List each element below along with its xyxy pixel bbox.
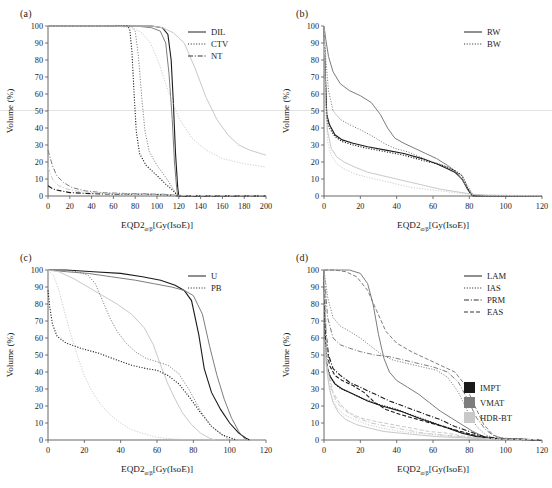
y-tick-label: 40 bbox=[35, 124, 43, 133]
x-tick-label: 0 bbox=[322, 446, 326, 455]
x-tick-label: 80 bbox=[131, 202, 139, 211]
y-tick-label: 20 bbox=[35, 158, 43, 167]
x-tick-label: 120 bbox=[536, 202, 548, 211]
panel-b: (b)0204060801001200102030405060708090100… bbox=[276, 0, 552, 244]
legend-label-EAS: EAS bbox=[487, 307, 503, 317]
panel-label: (c) bbox=[20, 252, 32, 263]
y-tick-label: 0 bbox=[39, 192, 43, 201]
y-axis-title: Volume (%) bbox=[281, 89, 291, 133]
curve-PB-IMPT bbox=[48, 290, 237, 440]
y-tick-label: 80 bbox=[35, 56, 43, 65]
panel-c: (c)0204060801001200102030405060708090100… bbox=[0, 244, 276, 488]
x-tick-label: 0 bbox=[46, 202, 50, 211]
y-tick-label: 80 bbox=[311, 56, 319, 65]
x-tick-label: 20 bbox=[80, 446, 88, 455]
legend-label-PB: PB bbox=[211, 283, 222, 293]
x-tick-label: 160 bbox=[216, 202, 228, 211]
panel-d: (d)0204060801001200102030405060708090100… bbox=[276, 244, 552, 488]
y-axis-title: Volume (%) bbox=[281, 333, 291, 377]
y-tick-label: 10 bbox=[311, 175, 319, 184]
x-axis-title: EQD2α/β[Gy(IsoE)] bbox=[397, 464, 469, 476]
y-tick-label: 100 bbox=[307, 22, 319, 31]
technique-swatch-HDR-BT bbox=[464, 412, 475, 423]
x-tick-label: 20 bbox=[356, 446, 364, 455]
x-tick-label: 40 bbox=[117, 446, 125, 455]
y-tick-label: 90 bbox=[311, 39, 319, 48]
y-tick-label: 0 bbox=[39, 436, 43, 445]
technique-label-HDR-BT: HDR-BT bbox=[480, 413, 513, 423]
x-tick-label: 80 bbox=[465, 202, 473, 211]
y-tick-label: 50 bbox=[35, 107, 43, 116]
y-tick-label: 60 bbox=[35, 90, 43, 99]
y-tick-label: 30 bbox=[35, 385, 43, 394]
curve-NT-HDR-BT bbox=[48, 167, 266, 196]
technique-label-IMPT: IMPT bbox=[480, 383, 501, 393]
curve-CTV-HDR-BT bbox=[48, 26, 266, 167]
y-tick-label: 10 bbox=[311, 419, 319, 428]
legend-label-NT: NT bbox=[211, 51, 223, 61]
curve-RW-IMPT bbox=[324, 26, 542, 196]
x-tick-label: 60 bbox=[109, 202, 117, 211]
y-tick-label: 0 bbox=[315, 192, 319, 201]
y-tick-label: 80 bbox=[311, 300, 319, 309]
curve-BW-IMPT bbox=[324, 26, 542, 196]
curve-RW-HDR-BT bbox=[324, 26, 542, 196]
curve-U-VMAT bbox=[48, 270, 248, 440]
y-tick-label: 60 bbox=[35, 334, 43, 343]
y-tick-label: 0 bbox=[315, 436, 319, 445]
x-axis-title: EQD2α/β[Gy(IsoE)] bbox=[397, 220, 469, 232]
y-axis-title: Volume (%) bbox=[5, 89, 15, 133]
x-tick-label: 60 bbox=[429, 202, 437, 211]
x-tick-label: 100 bbox=[500, 446, 512, 455]
y-tick-label: 100 bbox=[31, 266, 43, 275]
y-tick-label: 60 bbox=[311, 334, 319, 343]
x-tick-label: 200 bbox=[260, 202, 272, 211]
legend-label-LAM: LAM bbox=[487, 271, 506, 281]
curve-DIL-HDR-BT bbox=[48, 26, 266, 155]
y-tick-label: 50 bbox=[35, 351, 43, 360]
curve-U-HDR-BT bbox=[48, 270, 215, 440]
x-tick-label: 100 bbox=[151, 202, 163, 211]
y-axis-title: Volume (%) bbox=[5, 333, 15, 377]
x-tick-label: 120 bbox=[260, 446, 272, 455]
x-tick-label: 40 bbox=[393, 446, 401, 455]
y-tick-label: 40 bbox=[311, 368, 319, 377]
x-axis-title: EQD2α/β[Gy(IsoE)] bbox=[121, 464, 193, 476]
legend-label-IAS: IAS bbox=[487, 283, 501, 293]
y-tick-label: 70 bbox=[35, 73, 43, 82]
legend-label-CTV: CTV bbox=[211, 39, 229, 49]
curve-CTV-IMPT bbox=[48, 26, 266, 196]
curve-DIL-VMAT bbox=[48, 26, 266, 196]
y-tick-label: 60 bbox=[311, 90, 319, 99]
technique-label-VMAT: VMAT bbox=[480, 398, 505, 408]
panel-a: (a)0204060801001201401601802000102030405… bbox=[0, 0, 276, 244]
y-tick-label: 20 bbox=[311, 402, 319, 411]
legend-label-U: U bbox=[211, 271, 218, 281]
y-tick-label: 40 bbox=[35, 368, 43, 377]
y-tick-label: 10 bbox=[35, 419, 43, 428]
y-tick-label: 30 bbox=[311, 385, 319, 394]
y-tick-label: 90 bbox=[35, 39, 43, 48]
x-tick-label: 40 bbox=[88, 202, 96, 211]
curve-BW-HDR-BT bbox=[324, 26, 542, 196]
curve-CTV-VMAT bbox=[48, 26, 266, 196]
y-tick-label: 70 bbox=[311, 317, 319, 326]
y-tick-label: 100 bbox=[307, 266, 319, 275]
y-tick-label: 80 bbox=[35, 300, 43, 309]
x-tick-label: 120 bbox=[173, 202, 185, 211]
y-tick-label: 30 bbox=[311, 141, 319, 150]
x-tick-label: 180 bbox=[238, 202, 250, 211]
x-tick-label: 40 bbox=[393, 202, 401, 211]
x-tick-label: 20 bbox=[66, 202, 74, 211]
x-tick-label: 140 bbox=[194, 202, 206, 211]
x-tick-label: 60 bbox=[429, 446, 437, 455]
x-tick-label: 0 bbox=[322, 202, 326, 211]
y-tick-label: 90 bbox=[35, 283, 43, 292]
curve-DIL-IMPT bbox=[48, 26, 266, 196]
y-tick-label: 50 bbox=[311, 107, 319, 116]
panel-label: (a) bbox=[20, 8, 32, 19]
x-tick-label: 60 bbox=[153, 446, 161, 455]
curve-NT-VMAT bbox=[48, 150, 266, 196]
panel-label: (b) bbox=[296, 8, 308, 19]
x-tick-label: 100 bbox=[500, 202, 512, 211]
